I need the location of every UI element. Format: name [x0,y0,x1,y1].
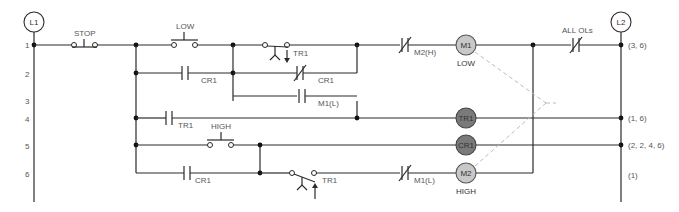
rung-number-4: 4 [25,115,30,124]
tr1-label-rung4: TR1 [178,121,194,130]
m2h-label: M2(H) [414,48,437,57]
coil-m1-label: M1 [460,41,472,50]
rung-5: HIGH CR1 (2, 2, 4, 6) [134,122,665,155]
coil-m2: M2 HIGH [456,163,476,196]
cr1-label-rung2b: CR1 [318,76,335,85]
rung-number-1: 1 [25,41,30,50]
tr1-timed-contact-rung6: TR1 [290,171,338,200]
high-pushbutton: HIGH [207,122,234,148]
cr1-label-rung2a: CR1 [201,76,218,85]
m2h-nc-contact: M2(H) [399,37,437,57]
rung-1: STOP LOW TR1 [34,22,647,68]
rung-numbers: 1 2 3 4 5 6 [25,41,30,179]
m1l-label-rung3: M1(L) [318,99,339,108]
rung-3: M1(L) [233,89,357,108]
coil-cr1: CR1 [456,135,476,155]
l2-label: L2 [617,18,626,27]
cr1-no-contact-rung2: CR1 [182,66,218,85]
stop-label: STOP [74,29,96,38]
l1-label: L1 [30,18,39,27]
coil-m1: M1 LOW [456,35,476,68]
coil-tr1-label: TR1 [458,114,474,123]
coil-m2-label: M2 [460,169,472,178]
cr1-nc-contact-rung2: CR1 [294,65,335,85]
cross-ref-rung4: (1, 6) [628,114,647,123]
coil-cr1-label: CR1 [458,141,475,150]
tr1-no-contact-rung4: TR1 [166,111,194,130]
cross-ref-rung5: (2, 2, 4, 6) [628,141,665,150]
rung-number-3: 3 [25,97,30,106]
ladder-diagram: L1 L2 1 2 3 4 5 6 STOP [0,0,679,212]
m1l-label-rung6: M1(L) [414,176,435,185]
coil-tr1: TR1 [456,108,476,128]
m1l-nc-contact-rung6: M1(L) [399,165,435,185]
rung-6: CR1 TR1 M1(L) M2 HIGH (1) [136,163,638,199]
rung-number-2: 2 [25,70,30,79]
stop-pushbutton: STOP [72,29,98,48]
rung-number-6: 6 [25,170,30,179]
cr1-label-rung6: CR1 [195,176,212,185]
cr1-no-contact-rung6: CR1 [184,166,212,185]
tr1-label-rung1: TR1 [293,49,309,58]
all-ols-label: ALL OLs [562,26,593,35]
m1l-no-contact-rung3: M1(L) [299,89,339,108]
tr1-label-rung6: TR1 [322,176,338,185]
cross-ref-rung6: (1) [628,171,638,180]
rung-number-5: 5 [25,142,30,151]
low-pushbutton: LOW [171,22,198,48]
high-label: HIGH [211,122,231,131]
mechanical-interlock [475,52,556,166]
rung-2: CR1 CR1 [134,65,357,85]
coil-m2-caption: HIGH [456,187,476,196]
coil-m1-caption: LOW [457,59,476,68]
cross-ref-rung1: (3, 6) [628,41,647,50]
all-ols-nc-contact: ALL OLs [562,26,593,53]
low-label: LOW [176,22,195,31]
